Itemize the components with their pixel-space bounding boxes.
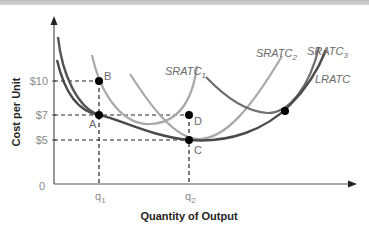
- y-tick-label-7: $7: [36, 109, 48, 121]
- label-sratc1: SRATC1: [165, 65, 206, 80]
- y-tick-label-0: 0: [39, 180, 45, 192]
- x-axis-arrow-icon: [348, 181, 357, 188]
- y-axis-title: Cost per Unit: [10, 77, 22, 146]
- chart-canvas: B A D C SRATC1 SRATC2 SRATC3 LRATC $10 $…: [0, 0, 369, 231]
- point-d: [185, 111, 193, 119]
- label-lratc: LRATC: [315, 73, 350, 85]
- label-sratc2: SRATC2: [256, 47, 297, 62]
- label-d: D: [194, 115, 202, 127]
- lratc-curve: [57, 50, 326, 140]
- x-tick-label-q1: q1: [95, 190, 106, 205]
- label-sratc3: SRATC3: [307, 45, 348, 60]
- point-c: [185, 136, 193, 144]
- y-tick-label-10: $10: [30, 75, 48, 87]
- x-tick-label-q2: q2: [185, 190, 196, 205]
- label-b: B: [104, 70, 111, 82]
- point-tangency-sratc3: [281, 107, 289, 115]
- label-c: C: [194, 144, 202, 156]
- y-axis-arrow-icon: [51, 16, 58, 25]
- point-b: [95, 77, 103, 85]
- x-axis-title: Quantity of Output: [140, 210, 237, 222]
- label-a: A: [89, 118, 97, 130]
- y-tick-label-5: $5: [36, 134, 48, 146]
- guide-lines: [54, 81, 189, 184]
